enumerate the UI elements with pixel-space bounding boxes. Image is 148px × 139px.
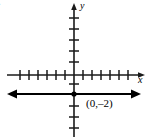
plot-point-marker [71, 91, 76, 96]
plot-line-left-arrowhead-icon [7, 90, 17, 99]
figure-container: . [0, 0, 148, 139]
point-coordinate-label: (0,–2) [86, 97, 113, 109]
y-axis-label: y [80, 1, 84, 11]
x-axis-label: x [138, 75, 142, 85]
y-axis-arrowhead-icon [71, 3, 77, 10]
plot-line-right-arrowhead-icon [131, 90, 141, 99]
coordinate-graph [0, 0, 148, 139]
